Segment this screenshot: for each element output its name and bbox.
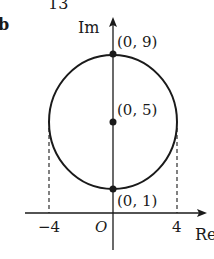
point-bottom-label: (0, 1) — [117, 192, 157, 210]
corner-fragment: b — [0, 15, 9, 34]
real-axis-label: Re — [195, 225, 214, 244]
point-top-label: (0, 9) — [117, 33, 157, 51]
origin-label: O — [95, 218, 107, 236]
tick-pos4: 4 — [172, 218, 182, 236]
point-center-dot — [110, 119, 117, 126]
complex-plane-diagram: 13 b (0, 9) (0, 5) (0, 1) Im Re O −4 4 — [0, 0, 214, 259]
point-center-label: (0, 5) — [117, 101, 157, 119]
point-bottom-dot — [110, 186, 117, 193]
point-top-dot — [110, 51, 117, 58]
page-number-fragment: 13 — [48, 0, 68, 13]
imag-axis-label: Im — [78, 18, 100, 37]
tick-neg4: −4 — [38, 218, 60, 236]
